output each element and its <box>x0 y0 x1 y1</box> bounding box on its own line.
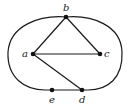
vertex-label-c: c <box>104 48 110 59</box>
graph-diagram: a b c d e <box>0 0 132 105</box>
vertex-d <box>80 88 85 93</box>
vertex-label-b: b <box>63 2 69 13</box>
vertex-a <box>31 52 36 57</box>
vertex-b <box>64 15 69 20</box>
vertex-label-d: d <box>79 94 85 105</box>
edge-b-c <box>66 17 100 54</box>
edge-a-b <box>33 17 66 54</box>
vertex-label-e: e <box>49 94 55 105</box>
vertex-e <box>50 88 55 93</box>
vertex-c <box>98 52 103 57</box>
edge-a-d <box>33 54 82 90</box>
vertex-label-a: a <box>22 48 28 59</box>
